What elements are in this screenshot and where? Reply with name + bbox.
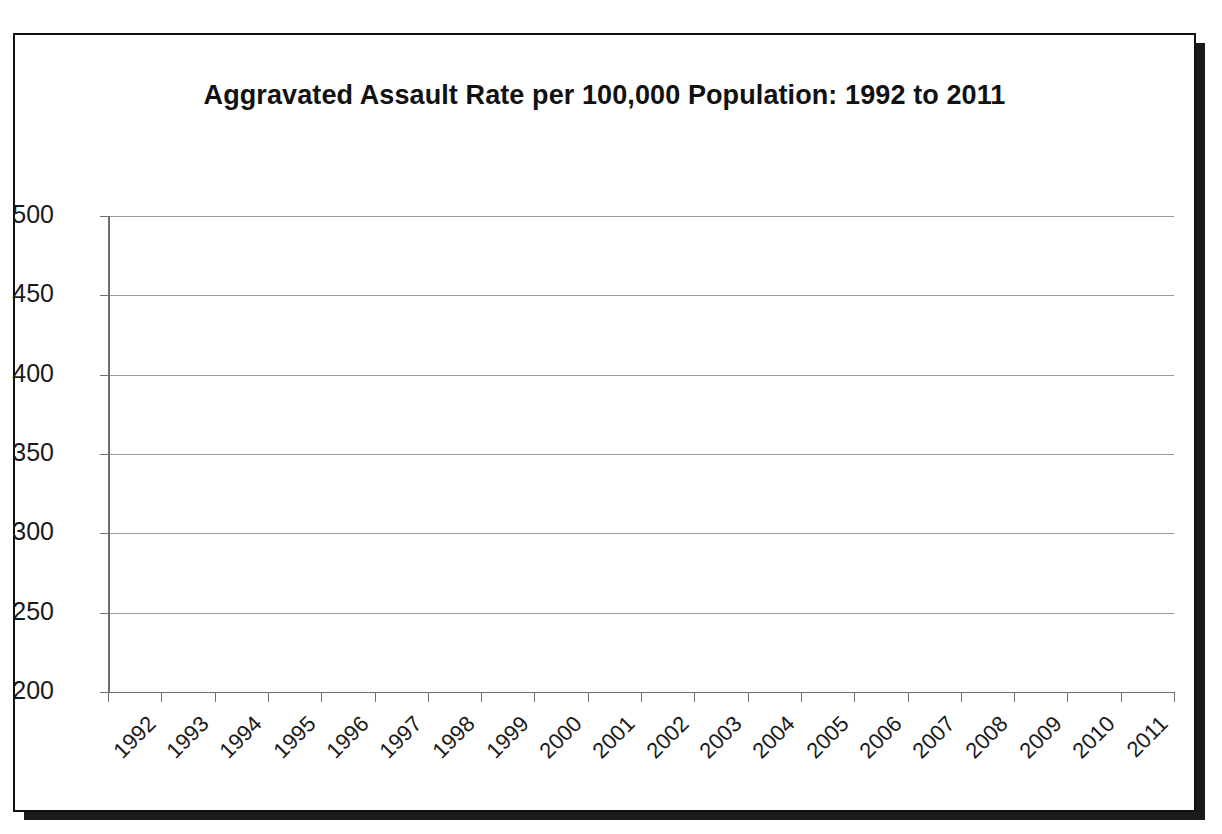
y-axis-label-250: 250 <box>0 597 54 626</box>
x-axis-tick-12 <box>748 692 749 702</box>
x-axis-tick-19 <box>1121 692 1122 702</box>
gridline-350 <box>108 454 1174 455</box>
y-axis-tick-400 <box>100 375 110 376</box>
gridline-250 <box>108 613 1174 614</box>
gridline-300 <box>108 533 1174 534</box>
y-axis-label-350: 350 <box>0 438 54 467</box>
x-axis-tick-5 <box>375 692 376 702</box>
x-axis-tick-10 <box>641 692 642 702</box>
plot-area <box>108 216 1174 692</box>
x-axis-tick-14 <box>854 692 855 702</box>
x-axis-tick-15 <box>908 692 909 702</box>
y-axis-label-400: 400 <box>0 359 54 388</box>
figure-frame: Aggravated Assault Rate per 100,000 Popu… <box>13 33 1196 812</box>
x-axis-tick-0 <box>108 692 109 702</box>
y-axis-label-450: 450 <box>0 279 54 308</box>
y-axis-label-200: 200 <box>0 676 54 705</box>
x-axis-tick-17 <box>1014 692 1015 702</box>
y-axis-tick-350 <box>100 454 110 455</box>
x-axis-tick-6 <box>428 692 429 702</box>
y-axis-label-500: 500 <box>0 200 54 229</box>
gridline-500 <box>108 216 1174 217</box>
x-axis-tick-4 <box>321 692 322 702</box>
x-axis-tick-9 <box>588 692 589 702</box>
x-axis-tick-20 <box>1174 692 1175 702</box>
x-axis-tick-7 <box>481 692 482 702</box>
x-axis-tick-16 <box>961 692 962 702</box>
y-axis-tick-250 <box>100 613 110 614</box>
y-axis-tick-450 <box>100 295 110 296</box>
y-axis-label-300: 300 <box>0 517 54 546</box>
y-axis-tick-500 <box>100 216 110 217</box>
chart-title: Aggravated Assault Rate per 100,000 Popu… <box>15 80 1194 111</box>
x-axis-tick-1 <box>161 692 162 702</box>
y-axis-tick-300 <box>100 533 110 534</box>
x-axis-tick-8 <box>534 692 535 702</box>
gridline-400 <box>108 375 1174 376</box>
x-axis-tick-3 <box>268 692 269 702</box>
x-axis-tick-13 <box>801 692 802 702</box>
gridline-450 <box>108 295 1174 296</box>
x-axis-tick-2 <box>215 692 216 702</box>
x-axis-tick-11 <box>694 692 695 702</box>
x-axis-tick-18 <box>1067 692 1068 702</box>
